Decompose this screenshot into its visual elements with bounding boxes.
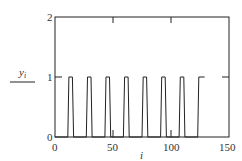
y-axis-label: yi [18, 66, 26, 80]
series-y-line [55, 77, 205, 137]
x-tick-100: 100 [163, 141, 180, 153]
y-tick-1: 1 [47, 71, 53, 83]
x-tick-150: 150 [219, 141, 236, 153]
chart-canvas: 2 1 0 0 50 100 150 i yi [0, 0, 242, 161]
x-tick-50: 50 [107, 141, 119, 153]
x-axis-label: i [140, 149, 143, 161]
y-tick-2: 2 [47, 11, 53, 23]
x-tick-0: 0 [52, 141, 58, 153]
